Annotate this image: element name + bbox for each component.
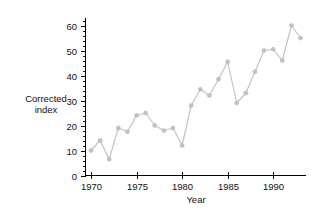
data-point — [280, 58, 284, 62]
y-tick-label: 10 — [66, 146, 77, 157]
data-point — [89, 148, 93, 152]
data-point — [171, 126, 175, 130]
data-point — [162, 128, 166, 132]
data-point — [253, 70, 257, 74]
y-axis-tick-labels: 0102030405060 — [66, 21, 77, 182]
data-point — [189, 103, 193, 107]
data-point — [262, 48, 266, 52]
y-tick-label: 30 — [66, 96, 77, 107]
x-tick-label: 1970 — [81, 181, 102, 192]
y-axis-title-line1: Corrected — [25, 93, 67, 104]
chart-container: 0102030405060 19701975198019851990 Corre… — [0, 0, 312, 216]
y-tick-label: 50 — [66, 46, 77, 57]
x-tick-label: 1980 — [172, 181, 193, 192]
data-point — [298, 36, 302, 40]
x-axis-title: Year — [186, 194, 205, 205]
data-point — [125, 130, 129, 134]
line-chart: 0102030405060 19701975198019851990 Corre… — [0, 0, 312, 216]
x-tick-label: 1990 — [263, 181, 284, 192]
data-point — [107, 157, 111, 161]
data-point — [180, 143, 184, 147]
data-point — [289, 23, 293, 27]
y-tick-label: 60 — [66, 21, 77, 32]
data-point — [153, 123, 157, 127]
x-tick-label: 1975 — [127, 181, 148, 192]
data-point — [98, 138, 102, 142]
data-point — [116, 126, 120, 130]
data-series-markers — [89, 23, 303, 161]
x-axis-tick-labels: 19701975198019851990 — [81, 181, 284, 192]
data-point — [144, 111, 148, 115]
x-tick-label: 1985 — [218, 181, 239, 192]
y-tick-label: 40 — [66, 71, 77, 82]
data-point — [198, 87, 202, 91]
data-point — [226, 60, 230, 64]
y-axis-title-line2: index — [35, 104, 58, 115]
y-tick-label: 0 — [72, 171, 77, 182]
data-point — [216, 77, 220, 81]
data-series-line — [91, 26, 301, 160]
data-point — [244, 91, 248, 95]
data-point — [207, 93, 211, 97]
data-point — [235, 101, 239, 105]
y-tick-label: 20 — [66, 121, 77, 132]
data-point — [271, 47, 275, 51]
data-point — [134, 113, 138, 117]
